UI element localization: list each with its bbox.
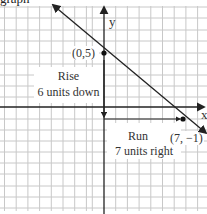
slope-graph: graph — [0, 0, 207, 214]
run-detail: 7 units right — [107, 145, 181, 158]
rise-detail: 6 units down — [34, 86, 103, 99]
rise-title: Rise — [34, 70, 103, 83]
point-label-0-5: (0,5) — [72, 47, 95, 60]
run-title: Run — [107, 130, 169, 143]
point-label-7-neg1: (7, −1) — [170, 132, 203, 145]
point-7-neg1 — [180, 116, 185, 121]
y-axis-label: y — [109, 15, 116, 28]
x-axis-label: x — [201, 108, 207, 121]
graph-overlay — [0, 0, 207, 214]
point-0-5 — [101, 50, 106, 55]
